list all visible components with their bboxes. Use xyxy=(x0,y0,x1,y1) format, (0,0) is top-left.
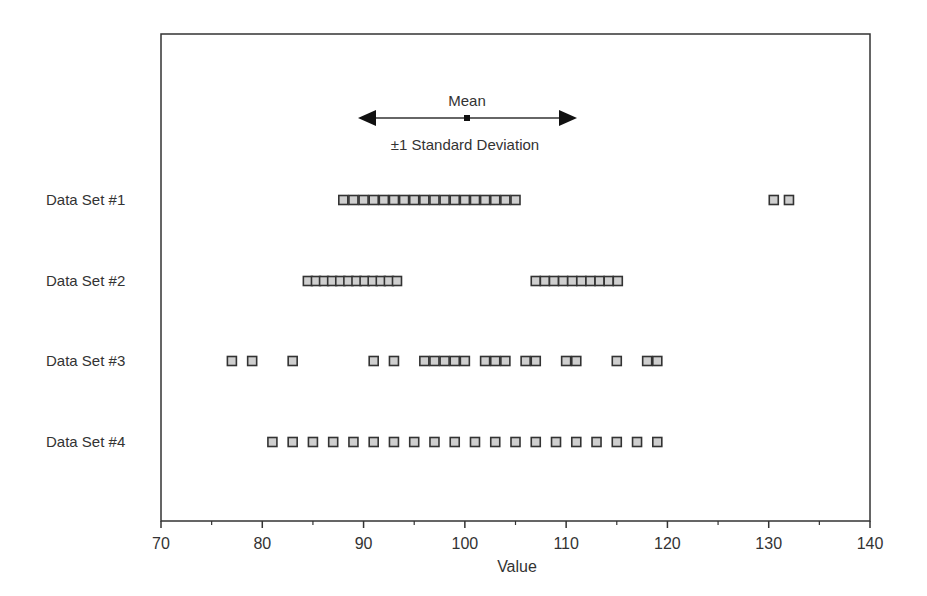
data-point xyxy=(410,438,419,447)
data-point xyxy=(501,196,510,205)
x-tick-label: 140 xyxy=(857,535,884,552)
data-point xyxy=(643,357,652,366)
plot-frame xyxy=(161,34,870,521)
data-point xyxy=(450,196,459,205)
data-point xyxy=(420,196,429,205)
data-point xyxy=(572,438,581,447)
data-point xyxy=(369,357,378,366)
x-tick-label: 70 xyxy=(152,535,170,552)
data-point xyxy=(568,277,577,286)
data-point xyxy=(420,357,429,366)
data-point xyxy=(288,357,297,366)
data-point xyxy=(288,438,297,447)
data-point xyxy=(389,196,398,205)
data-point xyxy=(531,438,540,447)
data-point xyxy=(491,438,500,447)
mean-marker-icon xyxy=(464,115,470,121)
data-point xyxy=(552,438,561,447)
data-point xyxy=(460,196,469,205)
data-point xyxy=(521,357,530,366)
data-point xyxy=(604,277,613,286)
legend-sd-label: ±1 Standard Deviation xyxy=(391,136,539,153)
data-point xyxy=(491,196,500,205)
data-point xyxy=(369,438,378,447)
data-point xyxy=(511,438,520,447)
data-point xyxy=(227,357,236,366)
data-point xyxy=(369,196,378,205)
data-point xyxy=(308,438,317,447)
data-point xyxy=(339,196,348,205)
data-point xyxy=(481,196,490,205)
x-tick-label: 80 xyxy=(253,535,271,552)
data-point xyxy=(349,196,358,205)
data-point xyxy=(470,438,479,447)
data-point xyxy=(653,438,662,447)
x-tick-label: 110 xyxy=(553,535,579,552)
data-point xyxy=(430,196,439,205)
data-point xyxy=(248,357,257,366)
data-point xyxy=(400,196,409,205)
data-point xyxy=(595,277,604,286)
legend-mean-label: Mean xyxy=(448,92,486,109)
data-point xyxy=(633,438,642,447)
data-point xyxy=(329,438,338,447)
data-point xyxy=(440,196,449,205)
series-label: Data Set #4 xyxy=(46,433,125,450)
data-point xyxy=(549,277,558,286)
data-point xyxy=(481,357,490,366)
data-point xyxy=(612,438,621,447)
x-tick-label: 130 xyxy=(755,535,782,552)
x-axis-label: Value xyxy=(497,558,537,575)
data-point xyxy=(501,357,510,366)
chart: 708090100110120130140ValueMean±1 Standar… xyxy=(0,0,927,596)
x-tick-label: 120 xyxy=(654,535,681,552)
data-point xyxy=(470,196,479,205)
data-point xyxy=(460,357,469,366)
data-point xyxy=(450,357,459,366)
data-point xyxy=(540,277,549,286)
data-point xyxy=(349,438,358,447)
series-label: Data Set #3 xyxy=(46,352,125,369)
data-point xyxy=(392,277,401,286)
data-point xyxy=(613,277,622,286)
data-point xyxy=(389,357,398,366)
data-point xyxy=(430,438,439,447)
data-point xyxy=(389,438,398,447)
series-label: Data Set #2 xyxy=(46,272,125,289)
data-point xyxy=(410,196,419,205)
x-tick-label: 100 xyxy=(452,535,479,552)
arrow-right-icon xyxy=(559,110,577,126)
data-point xyxy=(572,357,581,366)
data-point xyxy=(612,357,621,366)
data-point xyxy=(784,196,793,205)
data-point xyxy=(531,277,540,286)
data-point xyxy=(653,357,662,366)
data-point xyxy=(562,357,571,366)
data-point xyxy=(769,196,778,205)
data-point xyxy=(577,277,586,286)
data-point xyxy=(592,438,601,447)
data-point xyxy=(559,277,568,286)
data-point xyxy=(491,357,500,366)
data-point xyxy=(450,438,459,447)
data-point xyxy=(440,357,449,366)
data-point xyxy=(531,357,540,366)
series-label: Data Set #1 xyxy=(46,191,125,208)
data-point xyxy=(379,196,388,205)
data-point xyxy=(430,357,439,366)
plot-area: 708090100110120130140ValueMean±1 Standar… xyxy=(0,0,927,596)
x-tick-label: 90 xyxy=(355,535,373,552)
data-point xyxy=(586,277,595,286)
data-point xyxy=(359,196,368,205)
data-point xyxy=(268,438,277,447)
data-point xyxy=(511,196,520,205)
arrow-left-icon xyxy=(358,110,376,126)
